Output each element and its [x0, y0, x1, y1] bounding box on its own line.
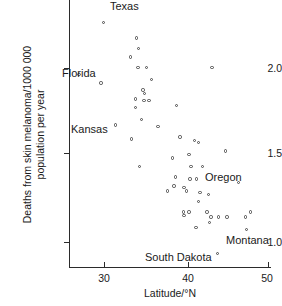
data-point [142, 99, 145, 102]
data-point [197, 141, 200, 144]
data-point [249, 210, 252, 213]
x-tick-label-40: 40 [173, 273, 203, 284]
data-point [188, 177, 191, 180]
data-point [140, 118, 143, 121]
y-tick-1.0 [64, 242, 69, 243]
data-point [175, 104, 178, 107]
data-point [145, 66, 148, 69]
data-point [147, 99, 150, 102]
data-point [114, 123, 117, 126]
data-point [205, 210, 208, 213]
y-tick-label-1.5: 1.5 [254, 148, 282, 159]
data-point [143, 92, 146, 95]
data-point [130, 137, 133, 140]
data-point [244, 215, 247, 218]
data-point [216, 252, 219, 255]
data-point [156, 125, 159, 128]
x-axis-title: Latitude/°N [69, 288, 271, 299]
data-point [135, 36, 138, 39]
data-point [187, 153, 190, 156]
x-axis-line [69, 267, 271, 268]
data-point [137, 47, 140, 50]
data-point [138, 165, 141, 168]
data-point [166, 189, 169, 192]
y-axis-line [69, 0, 70, 268]
y-tick-1.5 [64, 153, 69, 154]
x-tick-30 [104, 262, 105, 267]
x-tick-50 [268, 262, 269, 267]
annotation-florida: Florida [62, 68, 96, 79]
annotation-kansas: Kansas [71, 124, 108, 135]
data-point [172, 184, 175, 187]
data-point [224, 149, 227, 152]
annotation-oregon: Oregon [205, 172, 242, 183]
x-tick-label-50: 50 [252, 273, 282, 284]
data-point [225, 215, 228, 218]
data-point [129, 55, 132, 58]
data-point [207, 193, 210, 196]
data-point [185, 189, 188, 192]
data-point [217, 215, 220, 218]
annotation-texas: Texas [110, 1, 139, 12]
data-point [134, 97, 137, 100]
data-point [187, 210, 190, 213]
data-point [193, 139, 196, 142]
y-tick-label-2.0: 2.0 [254, 63, 282, 74]
data-point [134, 106, 137, 109]
data-point [99, 81, 102, 84]
data-point [136, 66, 139, 69]
data-point [198, 191, 201, 194]
data-point [195, 177, 198, 180]
y-axis-title-line2: population per year [33, 5, 46, 265]
y-axis-title: Deaths from skin melanoma/1000 000 popul… [21, 5, 46, 265]
data-point [174, 175, 177, 178]
data-point [171, 156, 174, 159]
annotation-montana: Montana [226, 235, 269, 246]
data-point [182, 214, 185, 217]
y-axis-title-line1: Deaths from skin melanoma/1000 000 [21, 5, 34, 265]
data-point [102, 21, 105, 24]
data-point [210, 66, 213, 69]
data-point [209, 215, 212, 218]
data-point [245, 228, 248, 231]
annotation-south-dakota: South Dakota [145, 252, 212, 263]
data-point [197, 200, 200, 203]
data-point [201, 165, 204, 168]
data-point [178, 135, 181, 138]
scatter-plot-figure: 2.0 1.5 1.0 30 40 50 Latitude/°N Deaths … [0, 0, 282, 306]
data-point [208, 221, 211, 224]
x-tick-label-30: 30 [89, 273, 119, 284]
data-point [150, 78, 153, 81]
data-point [194, 226, 197, 229]
data-point [189, 165, 192, 168]
